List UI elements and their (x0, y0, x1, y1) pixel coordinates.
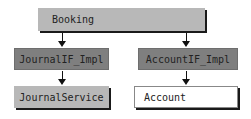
node-booking: Booking (38, 8, 205, 31)
node-label: JournalService (19, 92, 103, 103)
node-journal-service: JournalService (14, 86, 109, 108)
node-label: AccountIF_Impl (146, 54, 230, 65)
node-account: Account (134, 86, 238, 108)
node-label: JournalIF_Impl (19, 54, 103, 65)
node-label: Account (144, 92, 186, 103)
node-journal-if-impl: JournalIF_Impl (14, 48, 109, 70)
arrowhead-icon (182, 79, 190, 85)
arrowhead-icon (58, 79, 66, 85)
arrowhead-icon (182, 41, 190, 47)
node-account-if-impl: AccountIF_Impl (138, 48, 238, 70)
arrowhead-icon (58, 41, 66, 47)
node-label: Booking (52, 14, 94, 25)
